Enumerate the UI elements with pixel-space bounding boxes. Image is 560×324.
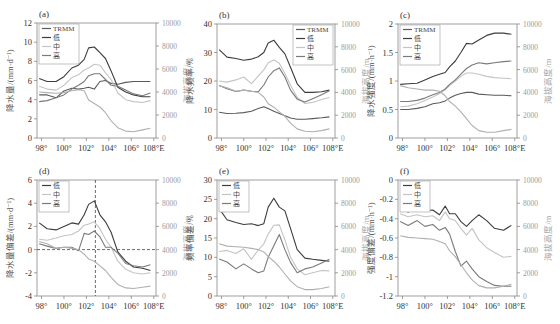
legend-entry: 低 [233,181,240,190]
right-tick-label: 4000 [523,88,538,97]
right-tick-label: 2000 [341,269,356,278]
panel-label: (c) [400,10,410,20]
right-tick-label: 10000 [162,19,181,28]
panel-a: (a)024681012020004000600080001000098°100… [5,9,192,153]
legend-entry: 低 [53,181,60,190]
x-tick-label: 100° [56,301,72,311]
panel-label: (b) [219,10,230,20]
series-line-elevation [39,90,150,132]
y-tick-label: -0.2 [380,194,393,204]
y-tick-label: -0.8 [380,252,393,262]
right-tick-label: 8000 [523,199,538,208]
legend: 低中高 [400,181,430,212]
y-axis-label: 强度偏差/(mm·h⁻¹) [366,202,376,274]
y-tick-label: 0.5 [382,105,393,115]
y-tick-label: 10 [204,252,213,262]
right-tick-label: 6000 [162,65,177,74]
y-tick-label: 30 [204,175,213,185]
series-line-TRMM [219,107,329,120]
right-tick-label: 8000 [341,43,356,52]
y-tick-label: 4 [28,198,33,208]
legend-entry: 低 [307,34,314,43]
x-tick-label: 108°E [143,143,164,153]
legend: 低中高 [219,181,249,212]
y-axis-label: 降水强度/(mm·h⁻¹) [366,45,376,117]
series-line-中 [400,73,511,107]
right-tick-label: 2000 [523,111,538,120]
legend-entry: TRMM [53,25,75,33]
y-tick-label: -2 [25,268,32,278]
legend-entry: 高 [307,52,314,61]
legend-entry: 低 [414,34,421,43]
x-tick-label: 106° [123,143,139,153]
y-tick-label: -1 [386,272,393,282]
legend-entry: 低 [53,33,60,42]
y-tick-label: -1.2 [380,291,393,301]
right-tick-label: 8000 [523,43,538,52]
right-tick-label: 4000 [523,246,538,255]
x-tick-label: 98° [215,143,227,153]
right-tick-label: 10000 [523,176,542,185]
y-tick-label: 6 [28,76,32,86]
y-tick-label: 0 [389,175,393,185]
x-tick-label: 104° [280,301,296,311]
y-tick-label: -0.4 [380,214,394,224]
y-tick-label: 5 [208,272,212,282]
panel-e: (e)051015202530020004000600080001000098°… [185,166,371,311]
legend-entry: 高 [414,199,421,208]
right-tick-label: 10000 [341,176,360,185]
right-tick-label: 6000 [523,222,538,231]
y-tick-label: 6 [28,175,32,185]
x-tick-label: 98° [36,143,48,153]
x-tick-label: 102° [78,143,94,153]
x-tick-label: 106° [484,301,500,311]
y-tick-label: 25 [204,194,213,204]
right-tick-label: 2000 [523,269,538,278]
right-tick-label: 2000 [162,111,177,120]
x-tick-label: 98° [397,301,409,311]
x-tick-label: 108°E [322,301,343,311]
x-tick-label: 108°E [504,143,525,153]
series-line-elevation [400,236,511,288]
x-tick-label: 100° [236,143,252,153]
legend: TRMM低中高 [39,24,79,64]
x-tick-label: 100° [236,301,252,311]
right-tick-label: 4000 [341,88,356,97]
right-tick-label: 6000 [162,222,177,231]
panel-label: (a) [39,9,49,19]
right-tick-label: 0 [162,292,166,301]
x-tick-label: 106° [123,301,139,311]
y-tick-label: 2 [389,19,393,29]
legend-entry: TRMM [307,26,329,34]
panel-label: (f) [400,166,409,176]
right-tick-label: 6000 [523,66,538,75]
right-axis-label: 海拔高度/m [543,215,553,260]
y-tick-label: 0 [208,291,212,301]
y-tick-label: 0 [28,245,32,255]
series-line-中 [39,64,150,102]
x-tick-label: 100° [417,143,433,153]
legend-entry: 中 [414,190,421,199]
x-tick-label: 102° [439,301,455,311]
x-tick-label: 98° [397,143,409,153]
x-tick-label: 104° [280,143,296,153]
x-tick-label: 106° [302,143,318,153]
legend-entry: 中 [53,42,60,51]
series-line-中 [400,212,511,257]
y-tick-label: -4 [25,291,33,301]
x-tick-label: 102° [78,301,94,311]
panel-d: (d)-4-20246020004000600080001000098°100°… [5,166,192,311]
y-axis-label: 降水频率/% [185,58,195,103]
x-tick-label: 104° [101,143,117,153]
y-tick-label: 10 [24,37,33,47]
y-tick-label: -0.6 [380,233,393,243]
x-tick-label: 100° [417,301,433,311]
x-tick-label: 106° [302,301,318,311]
y-tick-label: 1.5 [382,48,393,58]
panel-f: (f)-1.2-1-0.8-0.6-0.4-0.2002000400060008… [366,166,553,311]
series-line-elevation [39,242,150,289]
right-tick-label: 6000 [341,66,356,75]
legend-entry: 中 [414,43,421,52]
y-tick-label: 2 [28,221,32,231]
y-axis-label: 频率偏差/% [185,215,195,260]
